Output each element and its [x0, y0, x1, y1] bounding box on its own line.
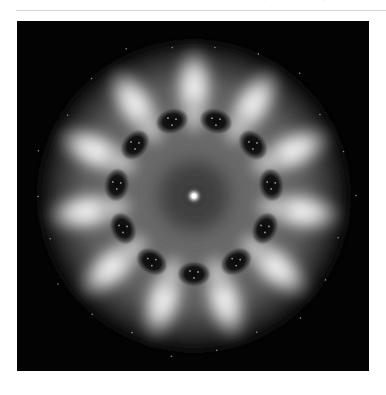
cut-off-header-text: · — — · —: [262, 0, 372, 4]
diffraction-pattern-figure: [17, 21, 369, 371]
center-bright-spot: [187, 189, 201, 203]
diffraction-pattern-image: [17, 21, 369, 371]
header-text-fragment: · — — · —: [262, 0, 372, 4]
horizontal-divider: [16, 10, 386, 11]
